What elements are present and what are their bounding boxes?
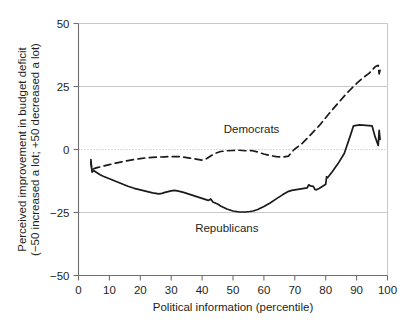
y-tick-label--50: −50	[50, 270, 70, 282]
x-tick-label-30: 30	[165, 284, 178, 296]
y-axis-title-line2: (−50 increased a lot; +50 decreased a lo…	[29, 43, 41, 256]
chart-figure: −50−25025500102030405060708090100 Democr…	[0, 0, 413, 334]
x-tick-label-10: 10	[103, 284, 116, 296]
y-tick-label--25: −25	[50, 207, 70, 219]
x-tick-label-80: 80	[319, 284, 332, 296]
x-tick-label-0: 0	[75, 284, 81, 296]
y-tick-label-50: 50	[57, 18, 70, 30]
annotation-republicans: Republicans	[195, 222, 259, 234]
annotation-democrats: Democrats	[224, 123, 280, 135]
x-tick-label-50: 50	[227, 284, 240, 296]
y-axis-title-line1: Perceived improvement in budget deficit	[16, 46, 28, 251]
y-tick-label-25: 25	[57, 81, 70, 93]
x-tick-label-40: 40	[196, 284, 209, 296]
line-chart: −50−25025500102030405060708090100 Democr…	[0, 0, 413, 334]
x-tick-label-70: 70	[288, 284, 301, 296]
x-tick-label-60: 60	[258, 284, 271, 296]
x-tick-label-100: 100	[378, 284, 397, 296]
x-tick-label-20: 20	[134, 284, 147, 296]
x-axis-title: Political information (percentile)	[153, 301, 314, 313]
x-tick-label-90: 90	[350, 284, 363, 296]
y-tick-label-0: 0	[63, 144, 69, 156]
